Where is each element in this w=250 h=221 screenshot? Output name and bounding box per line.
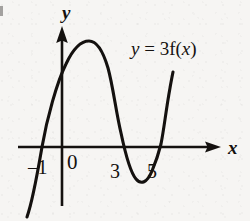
tick-label-negative-one: –1 <box>28 157 47 177</box>
y-axis-arrowhead <box>56 26 68 43</box>
plot-canvas <box>0 0 250 221</box>
graph-figure: y x –1 0 3 5 y = 3f(x) <box>0 0 250 221</box>
axis-label-x: x <box>228 138 238 157</box>
cubic-curve-path <box>27 41 173 217</box>
axis-label-y: y <box>62 3 70 22</box>
tick-label-three: 3 <box>110 161 120 181</box>
tick-label-five: 5 <box>147 161 157 181</box>
equation-x-term: x <box>182 38 190 59</box>
curve-equation-label: y = 3f(x) <box>131 39 197 58</box>
equation-close-paren: ) <box>190 38 196 59</box>
tick-label-zero: 0 <box>67 152 78 173</box>
equation-operator: = 3f( <box>139 38 181 59</box>
